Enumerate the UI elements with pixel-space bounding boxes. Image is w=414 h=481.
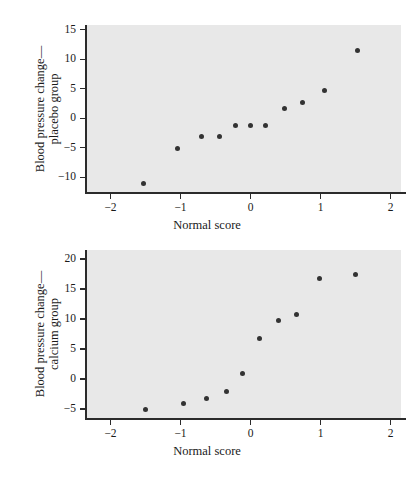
x-tick	[390, 194, 391, 199]
x-tick	[250, 420, 251, 425]
scatter-chart-calcium: −505101520−2−1012Normal scoreBlood press…	[0, 240, 414, 480]
data-point	[143, 407, 148, 412]
data-point	[353, 272, 358, 277]
y-tick	[80, 348, 85, 349]
x-tick	[250, 194, 251, 199]
y-axis-title-line1: Blood pressure change—	[34, 24, 48, 194]
x-tick-label: −1	[161, 428, 201, 440]
y-tick	[80, 408, 85, 409]
data-point	[204, 396, 209, 401]
y-tick	[80, 177, 85, 178]
data-point	[199, 134, 204, 139]
x-tick	[180, 420, 181, 425]
x-axis-line	[85, 418, 406, 420]
x-tick	[390, 420, 391, 425]
x-axis-title: Normal score	[0, 444, 414, 459]
x-tick-label: 1	[301, 202, 341, 214]
y-tick	[80, 258, 85, 259]
x-tick-label: −2	[91, 202, 131, 214]
x-tick	[180, 194, 181, 199]
x-axis-line	[85, 192, 406, 194]
x-tick	[110, 420, 111, 425]
data-point	[181, 401, 186, 406]
y-tick	[80, 29, 85, 30]
data-point	[257, 336, 262, 341]
y-axis-title-line2: calcium group	[48, 249, 62, 419]
y-tick	[80, 288, 85, 289]
y-tick	[80, 88, 85, 89]
plot-area-calcium: −505101520−2−1012Normal scoreBlood press…	[0, 240, 414, 480]
plot-area-placebo: −10−5051015−2−1012Normal scoreBlood pres…	[0, 0, 414, 240]
x-axis-title: Normal score	[0, 218, 414, 233]
x-tick-label: 2	[371, 202, 411, 214]
data-point	[276, 318, 281, 323]
x-tick	[110, 194, 111, 199]
y-tick	[80, 318, 85, 319]
data-point	[175, 146, 180, 151]
y-axis-title: Blood pressure change—calcium group	[34, 249, 61, 419]
y-tick	[80, 147, 85, 148]
y-axis-title-line1: Blood pressure change—	[34, 249, 48, 419]
data-point	[224, 389, 229, 394]
y-axis-line	[85, 250, 87, 420]
y-tick	[80, 59, 85, 60]
data-point	[322, 88, 327, 93]
y-tick	[80, 118, 85, 119]
x-tick	[320, 194, 321, 199]
y-axis-title: Blood pressure change—placebo group	[34, 24, 61, 194]
x-tick-label: 2	[371, 428, 411, 440]
data-point	[355, 48, 360, 53]
x-tick-label: −2	[91, 428, 131, 440]
x-tick-label: −1	[161, 202, 201, 214]
x-tick-label: 1	[301, 428, 341, 440]
x-tick-label: 0	[231, 202, 271, 214]
y-tick	[80, 378, 85, 379]
data-point	[294, 312, 299, 317]
x-tick	[320, 420, 321, 425]
data-point	[217, 134, 222, 139]
y-axis-line	[85, 25, 87, 194]
data-point	[300, 100, 305, 105]
plot-panel	[86, 25, 401, 192]
scatter-chart-placebo: −10−5051015−2−1012Normal scoreBlood pres…	[0, 0, 414, 240]
y-axis-title-line2: placebo group	[48, 24, 62, 194]
x-tick-label: 0	[231, 428, 271, 440]
data-point	[263, 123, 268, 128]
data-point	[248, 123, 253, 128]
figure-page: −10−5051015−2−1012Normal scoreBlood pres…	[0, 0, 414, 481]
data-point	[282, 106, 287, 111]
data-point	[141, 181, 146, 186]
